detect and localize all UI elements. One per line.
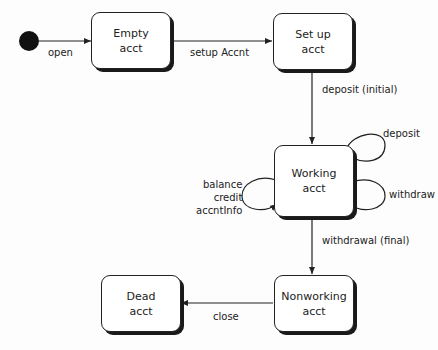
state-nonworking-acct: Nonworking acct	[274, 275, 354, 332]
state-dead-acct: Dead acct	[101, 275, 181, 332]
state-label: Working	[292, 166, 337, 181]
state-empty-acct: Empty acct	[91, 12, 171, 69]
state-label: acct	[302, 304, 325, 319]
state-label: Dead	[127, 289, 156, 304]
state-working-acct: Working acct	[274, 145, 354, 217]
transition-label-withdraw: withdraw	[389, 188, 435, 201]
initial-state-dot	[19, 31, 39, 51]
state-label: acct	[301, 42, 324, 57]
state-label: Empty	[113, 26, 148, 41]
state-label: Set up	[295, 27, 331, 42]
state-label: acct	[302, 181, 325, 196]
state-setup-acct: Set up acct	[273, 13, 353, 70]
transition-label-setup: setup Accnt	[190, 46, 249, 59]
transition-label-open: open	[48, 46, 73, 59]
transition-label-info: balance credit accntInfo	[196, 178, 242, 217]
transition-label-deposit: deposit	[383, 127, 420, 140]
withdraw-loop-arrow	[350, 180, 385, 210]
info-loop-arrow	[242, 178, 277, 209]
state-label: acct	[129, 304, 152, 319]
state-label: acct	[119, 41, 142, 56]
transition-label-withdrawal-final: withdrawal (final)	[322, 234, 409, 247]
transition-label-close: close	[213, 310, 239, 323]
state-label: Nonworking	[281, 289, 347, 304]
transition-label-deposit-initial: deposit (initial)	[322, 83, 397, 96]
